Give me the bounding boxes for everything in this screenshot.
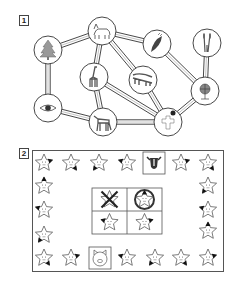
board-star — [34, 201, 52, 217]
board-star — [35, 154, 53, 170]
board-star — [199, 177, 216, 195]
board-star — [146, 249, 163, 267]
board-star — [117, 249, 135, 265]
board-star — [199, 222, 216, 239]
board-star — [35, 177, 52, 194]
pig-cell — [89, 247, 111, 269]
board-star — [172, 249, 189, 267]
board-star — [62, 249, 80, 265]
board-star — [117, 154, 135, 170]
center-grid — [92, 188, 162, 234]
board-star — [35, 249, 52, 267]
game-board-stars — [0, 0, 238, 288]
cow-cell — [143, 152, 165, 174]
board-star — [199, 249, 217, 265]
board-star — [172, 154, 190, 170]
board-star — [62, 154, 79, 172]
board-star — [198, 201, 216, 217]
board-star — [35, 226, 52, 244]
board-star — [90, 154, 107, 172]
board-star — [199, 154, 216, 172]
